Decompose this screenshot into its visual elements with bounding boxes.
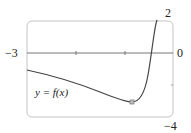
y-max-label: 2 bbox=[165, 6, 171, 20]
function-plot: −3 0 2 −4 y = f(x) bbox=[0, 0, 191, 133]
function-label: y = f(x) bbox=[34, 86, 68, 99]
x-max-label: 0 bbox=[177, 46, 183, 60]
y-min-label: −4 bbox=[164, 119, 177, 133]
viewing-window-frame bbox=[27, 21, 173, 117]
minimum-marker bbox=[130, 100, 134, 104]
x-min-label: −3 bbox=[5, 46, 18, 60]
